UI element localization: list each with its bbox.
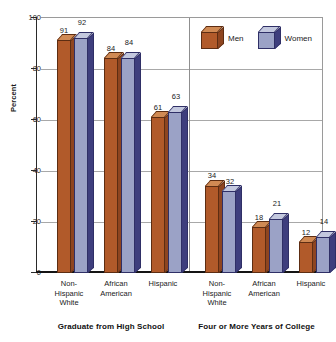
bar-value-p2-hispanic-men: 12 xyxy=(297,229,315,237)
legend-label-women: Women xyxy=(285,34,312,43)
legend: Men Women xyxy=(201,21,312,55)
bar-value-p1-africanamerican-men: 84 xyxy=(102,45,120,53)
y-axis-line xyxy=(36,17,37,273)
legend-label-men: Men xyxy=(228,34,244,43)
legend-swatch-front-face xyxy=(201,32,218,49)
bar-value-p1-hispanic-women: 63 xyxy=(167,93,185,101)
bar-side-face xyxy=(135,53,141,273)
bar-value-p2-africanamerican-women: 21 xyxy=(268,200,286,208)
bar-front-face xyxy=(104,58,118,273)
legend-swatch-men-icon xyxy=(201,32,218,49)
bar-p1-nonhispanicwhite-women xyxy=(74,38,88,273)
legend-item-women: Women xyxy=(258,27,312,49)
bar-side-face xyxy=(182,107,188,273)
bar-p2-africanamerican-women xyxy=(269,219,283,273)
bar-front-face xyxy=(252,227,266,273)
y-tick-label-100: 100 xyxy=(19,14,41,22)
bar-front-face xyxy=(151,117,165,273)
y-tick-label-80: 80 xyxy=(19,65,41,73)
bar-side-face xyxy=(330,232,336,273)
bar-p1-africanamerican-men xyxy=(104,58,118,273)
bar-value-p2-nonhispanicwhite-women: 32 xyxy=(221,178,239,186)
panel-title-graduate-high-school: Graduate from High School xyxy=(31,322,191,331)
category-label-p2-africanamerican: African American xyxy=(239,279,289,298)
category-label-p2-hispanic: Hispanic xyxy=(286,279,336,289)
legend-swatch-women-icon xyxy=(258,32,275,49)
category-label-p1-nonhispanicwhite: Non- Hispanic White xyxy=(44,279,94,308)
category-label-p2-nonhispanicwhite: Non- Hispanic White xyxy=(192,279,242,308)
category-label-p1-hispanic: Hispanic xyxy=(138,279,188,289)
bar-front-face xyxy=(74,38,88,273)
bar-side-face xyxy=(88,33,94,273)
bar-p1-hispanic-men xyxy=(151,117,165,273)
y-tick-label-60: 60 xyxy=(19,116,41,124)
bar-front-face xyxy=(269,219,283,273)
bar-front-face xyxy=(222,191,236,273)
bar-value-p2-nonhispanicwhite-men: 34 xyxy=(203,172,221,180)
bar-front-face xyxy=(205,186,219,273)
bar-front-face xyxy=(121,58,135,273)
bar-p2-africanamerican-men xyxy=(252,227,266,273)
bar-value-p1-nonhispanicwhite-women: 92 xyxy=(73,19,91,27)
y-tick-label-20: 20 xyxy=(19,218,41,226)
bar-front-face xyxy=(299,242,313,273)
bar-p1-nonhispanicwhite-men xyxy=(57,40,71,273)
category-label-p1-africanamerican: African American xyxy=(91,279,141,298)
panel-title-four-or-more-years-college: Four or More Years of College xyxy=(184,322,329,331)
bar-front-face xyxy=(316,237,330,273)
bar-value-p1-hispanic-men: 61 xyxy=(149,104,167,112)
bar-value-p1-africanamerican-women: 84 xyxy=(120,39,138,47)
bar-p2-nonhispanicwhite-women xyxy=(222,191,236,273)
bar-front-face xyxy=(57,40,71,273)
bar-p1-africanamerican-women xyxy=(121,58,135,273)
bar-p2-hispanic-men xyxy=(299,242,313,273)
y-axis-title: Percent xyxy=(9,68,18,128)
legend-swatch-front-face xyxy=(258,32,275,49)
bar-p2-hispanic-women xyxy=(316,237,330,273)
bar-value-p2-hispanic-women: 14 xyxy=(315,218,333,226)
bar-value-p1-nonhispanicwhite-men: 91 xyxy=(55,27,73,35)
legend-swatch-side-face xyxy=(275,27,281,49)
bar-side-face xyxy=(236,186,242,273)
bar-p2-nonhispanicwhite-men xyxy=(205,186,219,273)
bar-p1-hispanic-women xyxy=(168,112,182,273)
bar-front-face xyxy=(168,112,182,273)
bar-side-face xyxy=(283,214,289,273)
bar-value-p2-africanamerican-men: 18 xyxy=(250,214,268,222)
legend-item-men: Men xyxy=(201,27,244,49)
panel-divider xyxy=(189,18,190,273)
legend-swatch-side-face xyxy=(218,27,224,49)
plot-area: 91 92 84 84 61 63 xyxy=(41,17,323,273)
y-tick-label-40: 40 xyxy=(19,167,41,175)
